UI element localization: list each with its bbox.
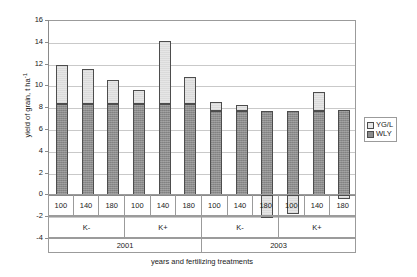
x-axis-potassium-label: K+ xyxy=(279,217,356,237)
y-axis-title-exponent: -1 xyxy=(22,73,28,78)
bar-segment-ygl xyxy=(313,92,325,111)
x-axis-potassium-label: K- xyxy=(48,217,125,237)
bar-segment-ygl xyxy=(159,41,171,104)
gridline xyxy=(49,108,355,109)
x-axis-treatment-label: 140 xyxy=(151,195,177,215)
y-axis-tick-label: 2 xyxy=(13,169,43,177)
x-axis-treatment-label: 140 xyxy=(74,195,100,215)
x-axis-category-row: 100140180100140180100140180100140180 xyxy=(48,194,356,216)
bar-segment-wly xyxy=(261,111,273,195)
bar-segment-wly xyxy=(338,110,350,195)
gridline xyxy=(49,43,355,44)
gridline xyxy=(49,86,355,87)
bar-segment-wly xyxy=(210,111,222,195)
bar-segment-wly xyxy=(159,104,171,196)
bar-segment-ygl xyxy=(133,90,145,104)
x-axis-treatment-label: 100 xyxy=(48,195,74,215)
x-axis-potassium-label: K+ xyxy=(125,217,202,237)
gridline xyxy=(49,152,355,153)
bar-segment-wly xyxy=(56,104,68,195)
y-axis-tick-label: 4 xyxy=(13,147,43,155)
bar-segment-ygl xyxy=(56,65,68,104)
x-axis-treatment-label: 100 xyxy=(125,195,151,215)
gridline xyxy=(49,174,355,175)
x-axis-year-label: 2001 xyxy=(48,239,202,252)
y-axis-tick-label: 14 xyxy=(13,38,43,46)
bar-segment-wly xyxy=(133,104,145,196)
gridline xyxy=(49,130,355,131)
y-axis-tick-label: 0 xyxy=(13,190,43,198)
bar-segment-wly xyxy=(236,111,248,195)
x-axis-year-group-row: 20012003 xyxy=(48,238,356,253)
y-axis-tick-label: 12 xyxy=(13,60,43,68)
legend-entry: YG/L xyxy=(367,121,393,129)
bar-segment-wly xyxy=(184,104,196,196)
x-axis-title: years and fertilizing treatments xyxy=(48,257,356,266)
x-axis-potassium-label: K- xyxy=(202,217,279,237)
x-axis-treatment-label: 180 xyxy=(99,195,125,215)
x-axis-treatment-label: 140 xyxy=(305,195,331,215)
x-axis-treatment-label: 100 xyxy=(279,195,305,215)
bar-segment-ygl xyxy=(82,69,94,104)
bar-segment-wly xyxy=(107,104,119,195)
bar-segment-ygl xyxy=(236,105,248,110)
x-axis-treatment-label: 100 xyxy=(202,195,228,215)
y-axis-tick-label: -2 xyxy=(13,212,43,220)
legend-label: WLY xyxy=(376,130,392,138)
y-axis-tick-label: 8 xyxy=(13,103,43,111)
legend-swatch-icon xyxy=(367,131,374,138)
bar-segment-wly xyxy=(82,104,94,195)
bar-segment-ygl xyxy=(107,80,119,104)
x-axis-treatment-label: 140 xyxy=(228,195,254,215)
yield-of-grain-bar-chart: yield of grain, t ha-1 1614121086420-2-4… xyxy=(0,0,417,277)
y-axis-tick-label: 10 xyxy=(13,81,43,89)
x-axis-year-label: 2003 xyxy=(202,239,356,252)
x-axis-treatment-label: 180 xyxy=(330,195,356,215)
bar-segment-wly xyxy=(287,111,299,195)
y-axis-tick-label: 6 xyxy=(13,125,43,133)
bar-segment-wly xyxy=(313,111,325,195)
chart-legend: YG/LWLY xyxy=(364,117,397,142)
bar-segment-ygl xyxy=(210,102,222,111)
x-axis-potassium-group-row: K-K+K-K+ xyxy=(48,216,356,238)
y-axis-tick-label: -4 xyxy=(13,234,43,242)
legend-entry: WLY xyxy=(367,130,393,138)
x-axis-treatment-label: 180 xyxy=(253,195,279,215)
x-axis-treatment-label: 180 xyxy=(176,195,202,215)
legend-swatch-icon xyxy=(367,122,374,129)
legend-label: YG/L xyxy=(376,121,393,129)
y-axis-tick-label: 16 xyxy=(13,16,43,24)
gridline xyxy=(49,65,355,66)
bar-segment-ygl xyxy=(184,77,196,104)
